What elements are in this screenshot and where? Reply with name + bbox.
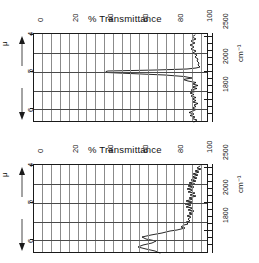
wavenumber-tick-1800: 1800 [222,76,229,92]
plot-area [33,33,208,122]
x-tick-label-60: 60 [141,145,150,153]
x-tick-label-0: 0 [36,18,45,22]
spectrum-figure-bottom: % Transmittance μ 0 20 40 60 80 100 4 5 … [0,131,259,262]
x-tick-label-100: 100 [205,140,214,153]
wavenumber-tick-2000: 2000 [222,179,229,195]
wavenumber-unit-label: cm⁻¹ [236,45,245,62]
chart-title: % Transmittance [88,144,162,155]
chart-title: % Transmittance [88,13,162,24]
x-tick-label-20: 20 [71,14,80,22]
wavenumber-tick-2000: 2000 [222,48,229,64]
wavenumber-unit-label: cm⁻¹ [236,176,245,193]
spectrum-figure-top: % Transmittance μ 0 20 40 60 80 100 4 5 … [0,0,259,131]
plot-area [33,164,208,253]
x-tick-label-20: 20 [71,145,80,153]
micron-unit-label: μ [0,41,9,46]
micron-unit-label: μ [0,172,9,177]
x-tick-label-40: 40 [106,14,115,22]
wavenumber-axis [212,33,213,122]
wavenumber-tick-1800: 1800 [222,207,229,223]
x-tick-label-100: 100 [205,9,214,22]
wavenumber-tick-2500: 2500 [222,144,229,160]
wavenumber-tick-2500: 2500 [222,13,229,29]
x-tick-label-40: 40 [106,145,115,153]
x-tick-label-0: 0 [36,149,45,153]
wavenumber-axis [212,164,213,253]
x-tick-label-80: 80 [176,145,185,153]
x-tick-label-60: 60 [141,14,150,22]
x-tick-label-80: 80 [176,14,185,22]
